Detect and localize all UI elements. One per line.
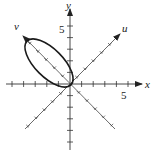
v-axis [23, 36, 115, 129]
ellipse-curve [17, 31, 81, 95]
x-axis [6, 81, 142, 87]
x-tick-label-5: 5 [121, 89, 127, 101]
y-axis-label: y [65, 0, 71, 11]
y-axis [67, 9, 73, 150]
v-axis-label: v [14, 20, 19, 32]
x-axis-label: x [144, 78, 150, 90]
y-tick-label-5: 5 [59, 23, 65, 35]
rotated-axes-diagram: y x u v 5 5 [0, 0, 152, 157]
u-axis-label: u [122, 22, 128, 34]
